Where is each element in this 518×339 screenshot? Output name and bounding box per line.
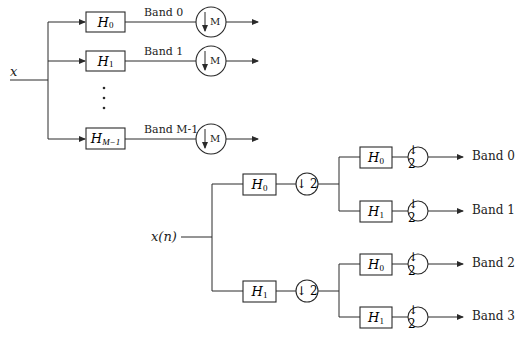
bottom-tree-filter-bank [181,147,463,328]
output-band-3: Band 3 [472,310,515,322]
stage2-row-band2 [339,254,463,275]
filter-label-hm1: HM−1 [86,128,125,149]
top-analysis-filter-bank [10,7,258,154]
stage2-decimator-label: ↓ 2 [408,254,428,274]
stage2-row-band1 [339,201,463,222]
decimator-factor-m: M [210,17,220,27]
decimator-factor-m: M [210,134,220,144]
output-band-1: Band 1 [472,204,515,216]
stage2-filter-label: H0 [360,254,392,275]
stage1-decimator-label: ↓ 2 [296,173,318,195]
output-band-0: Band 0 [472,150,515,162]
band-label-0: Band 0 [144,7,183,18]
input-label-x: x [10,65,17,78]
band-label-m1: Band M-1 [144,124,198,135]
decimator-factor-m: M [210,56,220,66]
stage1-filter-label-h0: H0 [243,174,276,195]
stage1-decimator-label: ↓ 2 [296,280,318,302]
output-band-2: Band 2 [472,257,515,269]
filter-label-h0: H0 [86,12,125,32]
input-label-xn: x(n) [151,230,177,243]
stage2-decimator-label: ↓ 2 [408,147,428,167]
stage2-filter-label: H1 [360,307,392,328]
stage2-row-band0 [339,147,463,168]
stage2-filter-label: H1 [360,201,392,222]
stage2-decimator-label: ↓ 2 [408,201,428,221]
stage1-filter-label-h1: H1 [243,281,276,302]
filter-bank-figure: x H0 H1 HM−1 Band 0 Band 1 Band M-1 M M … [0,0,518,339]
filter-label-h1: H1 [86,51,125,71]
stage2-row-band3 [339,307,463,328]
stage2-filter-label: H0 [360,147,392,168]
ellipsis-dots [103,87,106,110]
stage2-decimator-label: ↓ 2 [408,307,428,327]
band-label-1: Band 1 [144,46,183,57]
